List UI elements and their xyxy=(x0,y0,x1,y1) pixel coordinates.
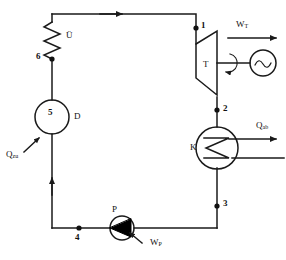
pump-work-subscript: P xyxy=(159,241,162,247)
pump-label: P xyxy=(112,205,117,214)
turbine-label: T xyxy=(203,60,209,69)
state-point-5-label: 5 xyxy=(48,108,53,117)
heat-in-label: Qzu xyxy=(6,150,18,159)
pump-impeller xyxy=(110,219,131,237)
diagram-canvas xyxy=(0,0,286,260)
heat-out-subscript: ab xyxy=(263,124,269,130)
turbine-work-symbol: W xyxy=(236,19,245,29)
superheater-label: Ü xyxy=(66,31,73,40)
state-point-3-label: 3 xyxy=(223,199,228,208)
condenser-zigzag xyxy=(204,138,229,158)
heat-in-arrow xyxy=(24,138,39,152)
heat-out-label: Qab xyxy=(256,121,268,130)
condenser-circle xyxy=(196,127,238,169)
turbine-work-subscript: T xyxy=(245,23,249,29)
pump-work-symbol: W xyxy=(150,237,159,247)
state-point-4-label: 4 xyxy=(75,233,80,242)
generator-sine xyxy=(255,61,271,68)
steam-generator-label: D xyxy=(74,112,81,121)
steam-generator-circle xyxy=(35,100,69,134)
state-point-1-label: 1 xyxy=(201,21,206,30)
turbine-work-label: WT xyxy=(236,20,248,29)
condenser-label: K xyxy=(190,143,197,152)
state-point-2-label: 2 xyxy=(223,104,228,113)
state-point-dots xyxy=(49,25,219,230)
heat-in-subscript: zu xyxy=(13,153,19,159)
cycle-diagram: 1 2 3 4 5 6 Ü D T K P WT WP Qzu Qab xyxy=(0,0,286,260)
pipe-superheater-to-turbine xyxy=(52,14,196,28)
state-point-6-label: 6 xyxy=(36,52,41,61)
pump-work-arrow xyxy=(130,233,142,243)
pump-work-label: WP xyxy=(150,238,162,247)
